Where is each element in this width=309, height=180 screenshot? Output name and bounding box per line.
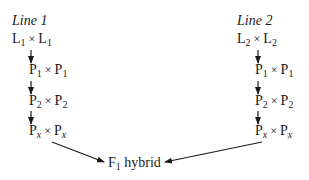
line1-cross-P1: P1×P1 — [29, 63, 67, 77]
line1-cross-P2: P2×P2 — [29, 94, 67, 108]
line2-title: Line 2 — [237, 14, 272, 28]
line1-cross-L: L1×L1 — [12, 32, 52, 46]
line2-cross-P1: P1×P1 — [255, 63, 293, 77]
line2-cross-L: L2×L2 — [237, 32, 277, 46]
line1-title: Line 1 — [12, 14, 47, 28]
f1-hybrid-label: F1 hybrid — [108, 156, 161, 170]
line1-cross-Px: Px×Px — [29, 124, 66, 138]
line2-cross-P2: P2×P2 — [255, 94, 293, 108]
arrow-line2-to-hybrid — [165, 142, 262, 162]
arrow-line1-to-hybrid — [52, 142, 104, 162]
line2-cross-Px: Px×Px — [255, 124, 292, 138]
